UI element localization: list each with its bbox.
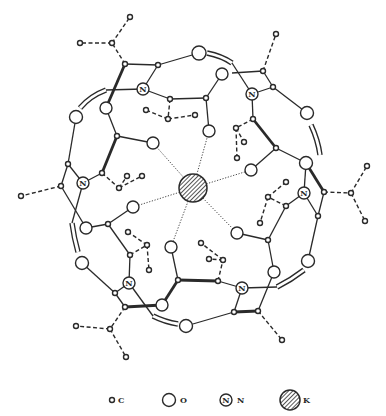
oxygen-atom-icon	[165, 241, 177, 253]
svg-text:N: N	[139, 84, 146, 94]
oxygen-atom-icon	[100, 102, 112, 114]
oxygen-atom-icon	[245, 164, 257, 176]
molecular-structure-diagram: N N N N N N C O	[0, 0, 386, 416]
oxygen-atom-icon	[302, 255, 315, 268]
oxygen-atom-icon	[231, 227, 243, 239]
legend-label-nitrogen: N	[237, 395, 244, 405]
oxygen-atom-icon	[80, 222, 92, 234]
legend-label-potassium: K	[303, 395, 311, 405]
legend-item-oxygen: O	[163, 394, 188, 407]
svg-text:N: N	[125, 278, 132, 288]
oxygen-atom-icon	[76, 257, 89, 270]
svg-text:N: N	[238, 283, 245, 293]
legend-item-potassium: K	[280, 390, 311, 410]
potassium-ion-icon	[179, 174, 207, 202]
svg-text:N: N	[300, 188, 307, 198]
nitrogen-atom-icon: N	[246, 88, 258, 100]
oxygen-atom-icon	[70, 111, 83, 124]
oxygen-atom-icon	[300, 157, 313, 170]
legend-item-nitrogen: N N	[220, 394, 244, 406]
oxygen-atom-icon	[127, 201, 139, 213]
nitrogen-atom-icon: N	[298, 187, 310, 199]
nitrogen-atom-icon: N	[123, 277, 135, 289]
svg-text:N: N	[222, 395, 229, 405]
nitrogen-atom-icon: N	[77, 177, 89, 189]
svg-text:N: N	[248, 89, 255, 99]
oxygen-atom-icon	[163, 394, 176, 407]
nitrogen-atom-icon: N	[236, 282, 248, 294]
legend-item-carbon: C	[110, 395, 125, 405]
oxygen-atom-icon	[156, 299, 168, 311]
oxygen-atom-icon	[216, 68, 228, 80]
carbon-atom-icon	[110, 398, 115, 403]
legend-label-carbon: C	[118, 395, 124, 405]
oxygen-atom-icon	[301, 107, 314, 120]
oxygen-atom-icon	[203, 125, 215, 137]
oxygen-atom-icon	[192, 46, 206, 60]
oxygen-atom-icon	[147, 137, 159, 149]
legend-label-oxygen: O	[180, 395, 187, 405]
legend: C O N N K	[110, 390, 312, 410]
oxygen-atom-icon	[180, 320, 193, 333]
oxygen-atom-icon	[268, 266, 280, 278]
nitrogen-atom-icon: N	[137, 83, 149, 95]
svg-text:N: N	[79, 178, 86, 188]
potassium-atom-icon	[280, 390, 300, 410]
